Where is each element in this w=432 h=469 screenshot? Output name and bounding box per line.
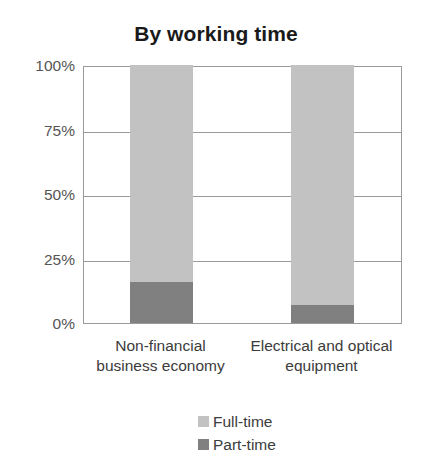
- y-tick-label-50: 50%: [5, 187, 75, 203]
- x-axis-category-label: Non-financialbusiness economy: [71, 336, 251, 377]
- y-tick-label-0: 0%: [5, 316, 75, 332]
- y-tick-label-75: 75%: [5, 123, 75, 139]
- legend-item-label: Full-time: [213, 414, 272, 430]
- bar-segment-part-time: [130, 282, 193, 323]
- category-label-line: Non-financial: [71, 336, 251, 356]
- category-label-line: Electrical and optical: [232, 336, 412, 356]
- y-tick-label-100: 100%: [5, 58, 75, 74]
- x-axis-category-label: Electrical and opticalequipment: [232, 336, 412, 377]
- legend-item-label: Part-time: [213, 437, 276, 453]
- y-tick-label-25: 25%: [5, 252, 75, 268]
- chart-title: By working time: [0, 22, 432, 46]
- category-label-line: business economy: [71, 356, 251, 376]
- legend-swatch-icon: [198, 439, 209, 450]
- category-label-line: equipment: [232, 356, 412, 376]
- bar-segment-part-time: [291, 305, 354, 323]
- bar-segment-full-time: [291, 65, 354, 305]
- bar-group: [291, 65, 354, 323]
- chart-legend: Full-timePart-time: [0, 410, 432, 456]
- legend-item: Full-time: [0, 410, 432, 433]
- plot-area: [83, 66, 402, 324]
- legend-swatch-icon: [198, 416, 209, 427]
- chart-container: By working time 0%25%50%75%100% Non-fina…: [0, 0, 432, 469]
- bar-group: [130, 65, 193, 323]
- legend-item: Part-time: [0, 433, 432, 456]
- bar-segment-full-time: [130, 65, 193, 282]
